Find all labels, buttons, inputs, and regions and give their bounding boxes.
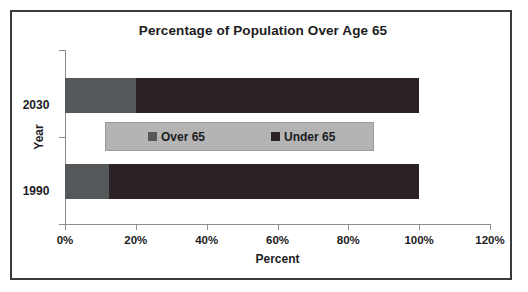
y-axis-title: Year [32,107,46,167]
x-axis-tick [348,224,349,230]
legend-swatch-under-65 [271,132,280,141]
x-axis-tick [65,224,66,230]
x-axis-tick [136,224,137,230]
y-axis-category-label-1990: 1990 [12,184,60,198]
plot-area: 2030 1990 Year Over 65 Under 65 Percent … [12,12,514,282]
bar-segment-under-65-1990 [109,164,420,199]
bar-segment-under-65-2030 [136,78,419,113]
x-axis-title: Percent [65,252,490,266]
x-axis-tick-label: 120% [460,234,520,246]
bar-segment-over-65-1990 [65,164,109,199]
x-axis-tick [490,224,491,230]
y-axis-tick-middle [59,137,66,138]
chart-frame: Percentage of Population Over Age 65 203… [10,10,512,280]
legend-swatch-over-65 [148,132,157,141]
x-axis-tick-label: 80% [318,234,378,246]
x-axis-tick-label: 60% [248,234,308,246]
bar-segment-over-65-2030 [65,78,136,113]
x-axis-tick-label: 20% [106,234,166,246]
legend-item-under-65: Under 65 [271,123,335,150]
legend-label-over-65: Over 65 [161,130,205,144]
legend-item-over-65: Over 65 [148,123,205,150]
y-axis-tick-top [59,50,66,51]
chart-screenshot: Percentage of Population Over Age 65 203… [0,0,528,292]
x-axis-tick [207,224,208,230]
x-axis-tick [278,224,279,230]
x-axis-tick-label: 40% [177,234,237,246]
x-axis-tick-label: 0% [35,234,95,246]
x-axis-tick-label: 100% [389,234,449,246]
chart-legend: Over 65 Under 65 [105,122,374,151]
legend-label-under-65: Under 65 [284,130,335,144]
x-axis-tick [419,224,420,230]
